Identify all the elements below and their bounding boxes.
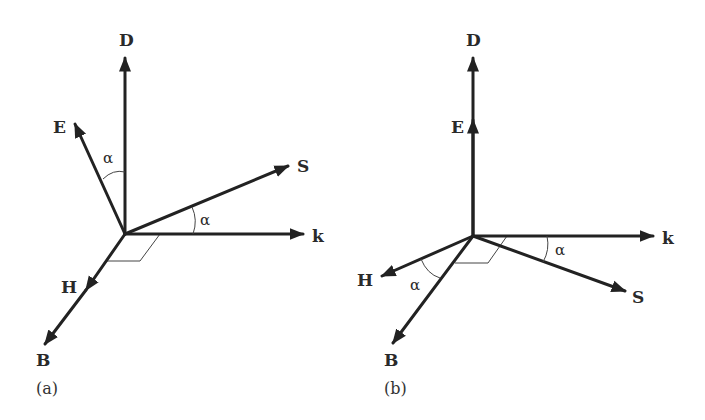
caption-a: (a) bbox=[36, 379, 58, 398]
angle-arc-s-k bbox=[192, 207, 195, 234]
vector-b bbox=[45, 290, 86, 344]
vector-s bbox=[473, 236, 625, 291]
angle-label-h-b: α bbox=[410, 276, 420, 294]
label-e: E bbox=[53, 117, 66, 137]
label-d: D bbox=[466, 30, 481, 50]
panel-a: D E S k H B α α (a) bbox=[36, 30, 325, 398]
diagram-canvas: D E S k H B α α (a) D E k S H B α α bbox=[0, 0, 705, 420]
caption-b: (b) bbox=[384, 379, 407, 398]
label-d: D bbox=[119, 30, 134, 50]
vector-h bbox=[86, 234, 125, 290]
panel-b: D E k S H B α α (b) bbox=[357, 30, 675, 398]
label-e: E bbox=[451, 117, 464, 137]
angle-arc-k-s bbox=[543, 236, 548, 262]
angle-label-s-k: α bbox=[200, 211, 210, 229]
label-h: H bbox=[357, 270, 373, 290]
angle-arc-e-d bbox=[103, 171, 125, 179]
angle-label-e-d: α bbox=[103, 149, 113, 167]
label-b: B bbox=[384, 350, 398, 370]
label-h: H bbox=[61, 277, 77, 297]
label-b: B bbox=[36, 350, 50, 370]
label-s: S bbox=[632, 287, 644, 307]
label-s: S bbox=[297, 156, 309, 176]
label-k: k bbox=[312, 226, 325, 246]
vector-e bbox=[75, 124, 125, 234]
angle-arc-h-b bbox=[421, 259, 440, 278]
angle-label-k-s: α bbox=[555, 241, 565, 259]
label-k: k bbox=[662, 228, 675, 248]
